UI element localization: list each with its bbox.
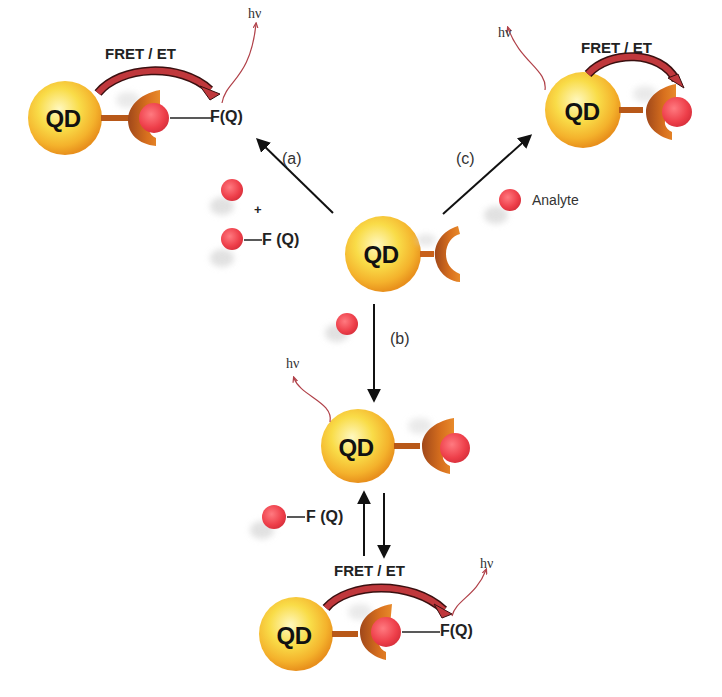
analyte-icon — [336, 313, 358, 335]
analyte-icon — [221, 179, 243, 201]
step-a-label: (a) — [282, 150, 302, 168]
analyte-icon — [371, 617, 401, 647]
step-c-label: (c) — [456, 150, 475, 168]
analyte-label: Analyte — [532, 192, 579, 208]
linker — [101, 115, 131, 121]
pathway-a-fq-label: F(Q) — [210, 108, 243, 126]
pathway-c-fret-label: FRET / ET — [581, 39, 652, 56]
labeled-analyte-equilibrium — [250, 505, 305, 539]
center-qd-label: QD — [364, 241, 399, 269]
linker — [420, 251, 434, 257]
analyte-reagent-b — [325, 313, 358, 342]
pathway-b2-qd-label: QD — [277, 622, 312, 650]
linker — [332, 631, 358, 637]
pathway-b-displacement-complex — [259, 570, 486, 671]
analyte-icon — [440, 433, 470, 463]
pathway-a-fret-label: FRET / ET — [105, 45, 176, 62]
qd-sensing-diagram — [0, 0, 722, 697]
pathway-b-fq-label: F (Q) — [306, 508, 343, 526]
pathway-c-qd-label: QD — [565, 98, 600, 126]
analyte-reagent — [484, 189, 521, 224]
analyte-icon — [262, 505, 286, 529]
pathway-b-emission-label: hν — [286, 356, 299, 372]
plus-sign: + — [254, 202, 262, 217]
labeled-analyte-reagent — [210, 228, 262, 267]
pathway-b2-fq-label: F(Q) — [440, 622, 473, 640]
emission-icon — [508, 28, 545, 90]
analyte-icon — [139, 103, 169, 133]
linker — [394, 443, 420, 449]
analyte-icon — [499, 189, 521, 211]
free-analyte-reagent — [210, 179, 243, 215]
emission-icon — [294, 378, 330, 422]
linker — [619, 107, 643, 113]
analyte-icon — [221, 228, 243, 250]
emission-icon — [222, 24, 256, 103]
pathway-c-emission-label: hν — [498, 25, 511, 41]
emission-icon — [452, 570, 486, 616]
pathway-b2-emission-label: hν — [480, 556, 493, 572]
pathway-b-qd-label: QD — [339, 434, 374, 462]
pathway-a-complex — [28, 24, 256, 155]
step-b-label: (b) — [390, 330, 410, 348]
labeled-analyte-label: F (Q) — [262, 231, 299, 249]
pathway-a-emission-label: hν — [248, 6, 261, 22]
pathway-b-complex — [294, 378, 470, 483]
analyte-icon — [662, 97, 692, 127]
pathway-b2-fret-label: FRET / ET — [334, 562, 405, 579]
center-qd-conjugate — [345, 216, 460, 292]
receptor-icon — [435, 226, 460, 282]
pathway-a-qd-label: QD — [46, 105, 81, 133]
